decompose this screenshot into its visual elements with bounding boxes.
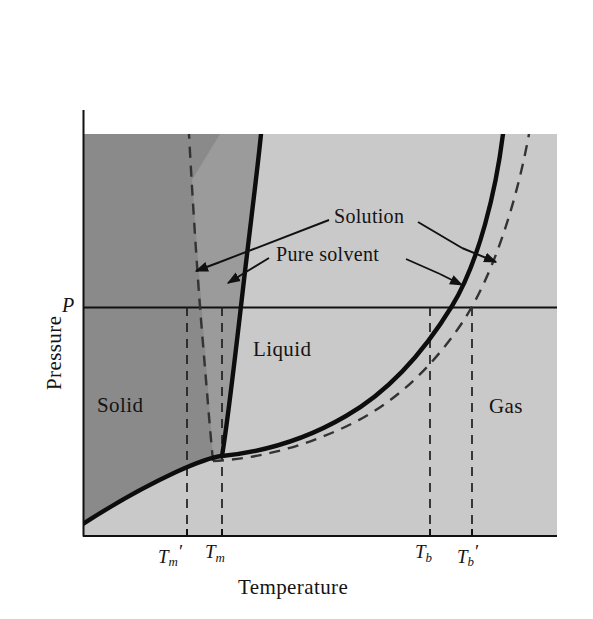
region-label-gas: Gas <box>489 394 523 419</box>
region-label-liquid: Liquid <box>253 337 311 362</box>
phase-diagram-figure: Solid Liquid Gas Solution Pure solvent P… <box>0 0 593 619</box>
region-label-solid: Solid <box>97 393 143 418</box>
right-white-margin <box>557 0 593 619</box>
tick-label-tm-prime: Tm′ <box>158 541 183 570</box>
y-axis-title: Pressure <box>42 316 67 390</box>
top-white-margin <box>0 0 593 134</box>
annotation-label-pure-solvent: Pure solvent <box>276 243 379 266</box>
tick-label-tm: Tm <box>205 541 225 566</box>
plot-area-fills <box>83 134 557 536</box>
annotation-label-solution: Solution <box>334 205 404 228</box>
phase-diagram-plot <box>0 0 593 619</box>
tick-label-tb: Tb <box>415 541 432 566</box>
pressure-axis-tick-label: P <box>62 294 74 317</box>
tick-label-tb-prime: Tb′ <box>457 541 479 570</box>
x-axis-title: Temperature <box>238 575 348 600</box>
